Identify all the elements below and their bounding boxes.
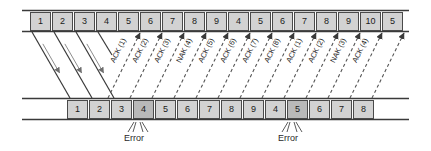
sender-frame-box: 10: [360, 12, 381, 31]
receiver-frame-box: 3: [111, 100, 132, 119]
sender-frame-box: 7: [162, 12, 183, 31]
sender-frame-box: 4: [96, 12, 117, 31]
data-direction-arrow: [43, 44, 60, 73]
sender-frame-box: 2: [52, 12, 73, 31]
receiver-frame-box: 4: [265, 100, 286, 119]
diagram-canvas: 123456789456789105 12345678945678 ACK (1…: [0, 0, 431, 151]
sender-frame-box: 5: [382, 12, 403, 31]
error-label: Error: [124, 133, 144, 143]
data-frame-lines: [32, 32, 114, 98]
sender-frame-box: 9: [206, 12, 227, 31]
data-frame-line: [54, 32, 92, 98]
sender-frame-box: 3: [74, 12, 95, 31]
receiver-frame-box: 7: [199, 100, 220, 119]
sender-frame-box: 5: [118, 12, 139, 31]
receiver-frame-box: 6: [177, 100, 198, 119]
data-frame-line: [32, 32, 70, 98]
sender-frame-box: 5: [250, 12, 271, 31]
receiver-frame-box: 4: [133, 100, 154, 119]
sender-frame-box: 1: [30, 12, 51, 31]
sender-frame-box: 6: [140, 12, 161, 31]
receiver-frame-box: 7: [331, 100, 352, 119]
receiver-frame-box: 6: [309, 100, 330, 119]
receiver-frame-box: 8: [221, 100, 242, 119]
sender-frame-box: 7: [294, 12, 315, 31]
sender-frame-box: 8: [316, 12, 337, 31]
error-tick-marks: [128, 122, 302, 132]
receiver-frame-box: 5: [287, 100, 308, 119]
sender-frame-box: 4: [228, 12, 249, 31]
trailing-ack-arrow: [372, 33, 404, 98]
receiver-frame-box: 9: [243, 100, 264, 119]
sender-frame-box: 9: [338, 12, 359, 31]
receiver-frame-box: 1: [67, 100, 88, 119]
error-label: Error: [278, 133, 298, 143]
data-direction-arrow: [87, 44, 104, 73]
sender-frame-box: 6: [272, 12, 293, 31]
receiver-frame-box: 2: [89, 100, 110, 119]
data-frame-line: [98, 32, 112, 55]
data-direction-arrow: [65, 44, 82, 73]
receiver-frame-box: 8: [353, 100, 374, 119]
sender-frame-box: 8: [184, 12, 205, 31]
data-frame-line: [76, 32, 114, 98]
receiver-frame-box: 5: [155, 100, 176, 119]
